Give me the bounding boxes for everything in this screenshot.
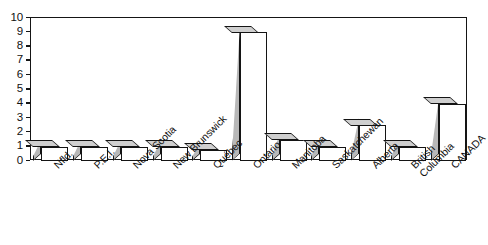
y-axis-tick-label: 7: [17, 52, 23, 66]
bar-front-face: [240, 32, 267, 161]
bar[interactable]: [240, 32, 267, 161]
y-axis-tick-label: 1: [17, 138, 23, 152]
bars-container: [31, 18, 468, 161]
y-axis-tick-label: 2: [17, 124, 23, 138]
x-axis-label: BritishColumbia: [409, 163, 425, 179]
x-axis-label: New Brunswick: [171, 163, 179, 171]
x-axis-label: Manitoba: [290, 163, 298, 171]
bar-slot: [389, 18, 429, 161]
x-axis-label: Québec: [211, 163, 219, 171]
y-axis-tick-label: 8: [17, 38, 23, 52]
x-axis-label: CANADA: [449, 163, 457, 171]
x-axis-label: Ontario: [251, 163, 259, 171]
x-axis-label: Nfld.: [52, 163, 60, 171]
y-axis-tick-label: 5: [17, 81, 23, 95]
x-axis-label: P.E.I.: [92, 163, 100, 171]
y-axis-tick-label: 4: [17, 95, 23, 109]
x-axis-label: Saskatchewan: [330, 163, 338, 171]
plot-area: [30, 17, 467, 160]
x-axis-label: Alberta: [370, 163, 378, 171]
y-axis-tick-label: 10: [11, 10, 23, 24]
x-axis-label: Nova Scotia: [131, 163, 139, 171]
x-axis-category-labels: Nfld.P.E.I.Nova ScotiaNew BrunswickQuébe…: [30, 163, 467, 245]
y-axis-tick-label: 3: [17, 110, 23, 124]
y-axis-tick-label: 9: [17, 24, 23, 38]
y-axis-tick-label: 0: [17, 153, 23, 167]
x-axis-label-line: Columbia: [418, 171, 426, 179]
y-axis-tick-label: 6: [17, 67, 23, 81]
y-axis: 012345678910: [0, 17, 30, 160]
